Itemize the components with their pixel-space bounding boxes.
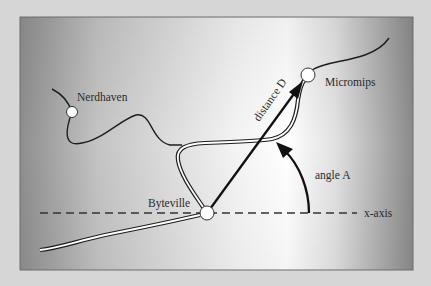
town-nerdhaven-marker[interactable] — [67, 107, 78, 118]
label-byteville: Byteville — [148, 197, 190, 210]
town-byteville-marker[interactable] — [200, 206, 214, 220]
town-micromips-marker[interactable] — [301, 68, 315, 82]
label-nerdhaven: Nerdhaven — [77, 91, 128, 103]
label-x-axis: x-axis — [364, 207, 393, 219]
diagram-canvas: Nerdhaven Byteville Micromips angle A x-… — [0, 0, 431, 286]
label-angle: angle A — [315, 169, 351, 182]
label-micromips: Micromips — [325, 76, 376, 89]
map-diagram: Nerdhaven Byteville Micromips angle A x-… — [0, 0, 431, 286]
